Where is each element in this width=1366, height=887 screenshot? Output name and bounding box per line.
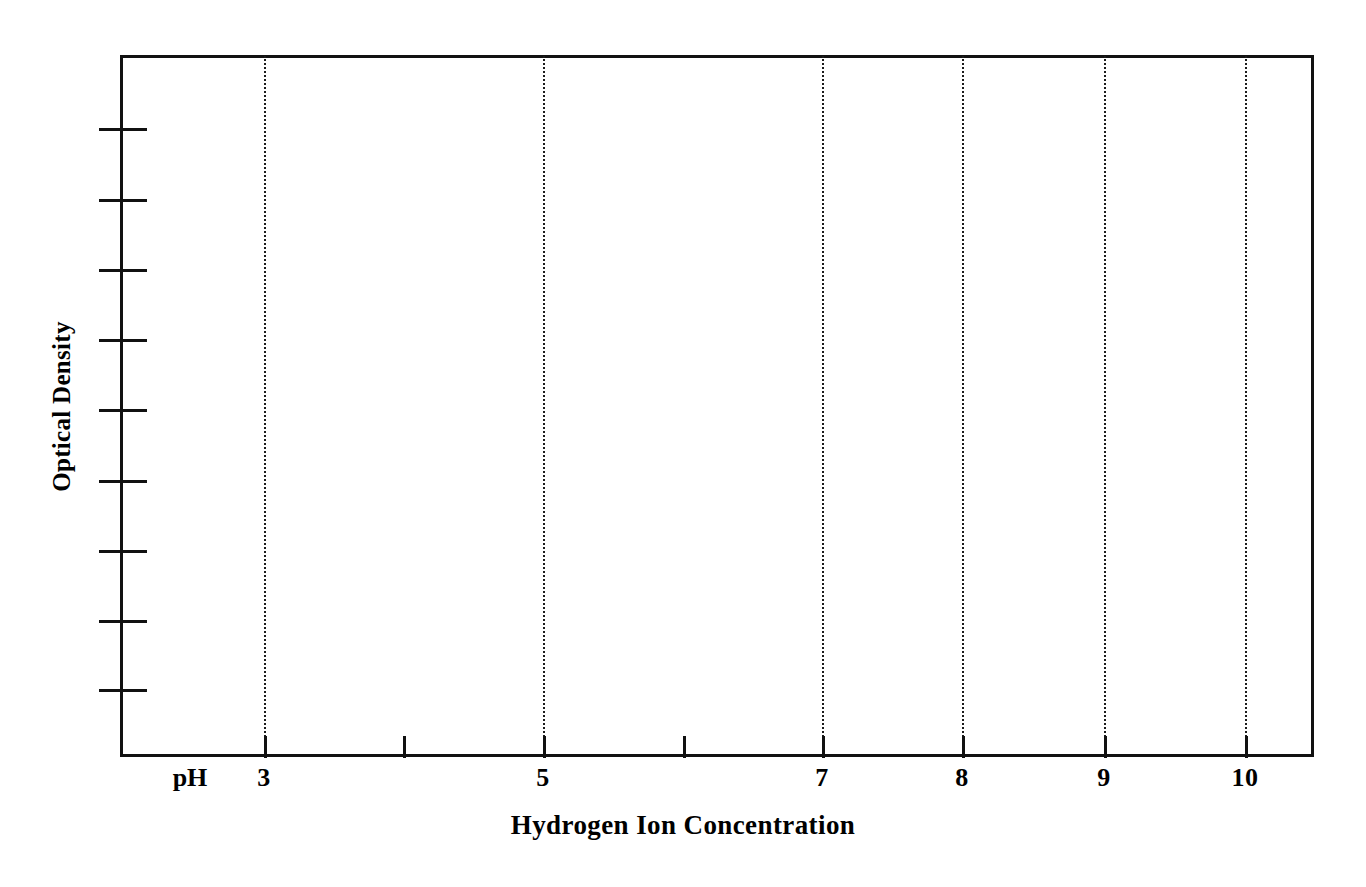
x-axis-tick-3 — [264, 736, 267, 758]
x-axis-tick-10 — [1245, 736, 1248, 758]
x-axis-tick-label-5: 5 — [536, 765, 550, 791]
x-axis-tick-label-9: 9 — [1097, 765, 1111, 791]
x-axis-tick-label-8: 8 — [955, 765, 969, 791]
x-axis-title: Hydrogen Ion Concentration — [0, 812, 1366, 839]
x-axis-tick-9 — [1104, 736, 1107, 758]
x-axis-tick-label-10: 10 — [1232, 765, 1259, 791]
x-axis-tick-7 — [822, 736, 825, 758]
x-axis-tick-8 — [962, 736, 965, 758]
x-axis-tick-layer — [0, 0, 1366, 758]
x-axis-tick-label-3: 3 — [257, 765, 271, 791]
x-axis-tick-5 — [543, 736, 546, 758]
x-axis-tick-6 — [683, 736, 686, 758]
x-axis-tick-4 — [403, 736, 406, 758]
chart-figure: Optical Density 3578910 pH Hydrogen Ion … — [0, 0, 1366, 887]
x-axis-tick-label-7: 7 — [815, 765, 829, 791]
x-axis-ph-prefix-label: pH — [173, 765, 208, 791]
